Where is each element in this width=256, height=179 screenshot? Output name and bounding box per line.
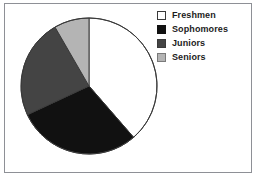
legend-item-seniors[interactable]: Seniors (157, 50, 252, 64)
pie-svg (0, 0, 170, 179)
pie-chart-figure: Freshmen Sophomores Juniors Seniors (0, 0, 256, 179)
legend-swatch-sophomores (157, 25, 166, 34)
legend-label-sophomores: Sophomores (172, 24, 228, 34)
legend-item-freshmen[interactable]: Freshmen (157, 8, 252, 22)
legend-swatch-juniors (157, 39, 166, 48)
legend-swatch-seniors (157, 53, 166, 62)
legend-label-seniors: Seniors (172, 52, 206, 62)
legend-item-sophomores[interactable]: Sophomores (157, 22, 252, 36)
legend-item-juniors[interactable]: Juniors (157, 36, 252, 50)
legend-label-juniors: Juniors (172, 38, 205, 48)
chart-legend: Freshmen Sophomores Juniors Seniors (157, 8, 252, 64)
pie-slice-group (21, 18, 157, 154)
legend-swatch-freshmen (157, 11, 166, 20)
pie-plot-area (0, 0, 170, 179)
legend-label-freshmen: Freshmen (172, 10, 216, 20)
